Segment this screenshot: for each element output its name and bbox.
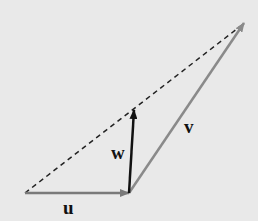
dashed-sum-line: [25, 25, 242, 193]
vector-v-arrow: [129, 23, 244, 193]
label-w: w: [111, 142, 125, 163]
label-v: v: [184, 116, 194, 137]
vector-w-arrow: [129, 110, 134, 193]
label-u: u: [63, 197, 74, 218]
diagram-canvas: u w v: [0, 0, 258, 221]
vector-diagram: u w v: [0, 0, 258, 221]
